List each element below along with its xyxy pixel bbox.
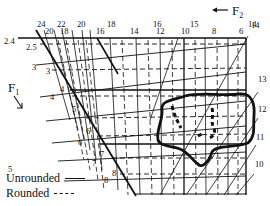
top-inner-label: 8 <box>212 26 216 36</box>
right-label: 14 <box>251 20 260 30</box>
left-label: 6 <box>78 137 82 147</box>
right-label: 11 <box>256 132 264 142</box>
left-label: 7 <box>92 158 96 168</box>
top-inner-label: 12 <box>156 26 165 36</box>
left-inner-label: 4 <box>60 84 65 94</box>
left-label: 2.4 <box>4 36 15 46</box>
right-label: 10 <box>255 159 264 169</box>
left-inner-label: 6 <box>86 126 90 136</box>
top-inner-label: 14 <box>130 26 139 36</box>
top-label: 20 <box>77 19 86 29</box>
right-label: 12 <box>258 104 267 114</box>
left-label: 8 <box>104 175 108 185</box>
left-inner-label: 2.5 <box>26 42 37 52</box>
legend-rounded: Rounded <box>6 186 74 200</box>
f1-label: F1 <box>8 80 19 97</box>
left-inner-label: 3 <box>46 66 50 76</box>
top-inner-label: 6 <box>239 26 243 36</box>
left-label: 3 <box>32 62 36 72</box>
top-label: 15 <box>190 19 199 29</box>
left-inner-label: 8 <box>112 168 116 178</box>
legend-rounded-label: Rounded <box>6 186 49 200</box>
top-inner-label: 10 <box>181 26 190 36</box>
left-label: 4 <box>50 92 55 102</box>
legend-unrounded-label: Unrounded <box>6 171 60 185</box>
top-inner-label: 16 <box>96 26 105 36</box>
left-inner-label: 5 <box>72 104 76 114</box>
f2-label: F2 <box>232 3 243 20</box>
left-inner-label: 7 <box>100 149 104 159</box>
top-label: 18 <box>107 19 116 29</box>
legend-unrounded: Unrounded <box>6 171 85 185</box>
top-inner-label: 18 <box>60 26 69 36</box>
right-label: 13 <box>258 74 267 84</box>
dashed-line-icon <box>54 193 74 194</box>
solid-line-icon <box>65 178 85 179</box>
top-inner-label: 20 <box>45 26 54 36</box>
